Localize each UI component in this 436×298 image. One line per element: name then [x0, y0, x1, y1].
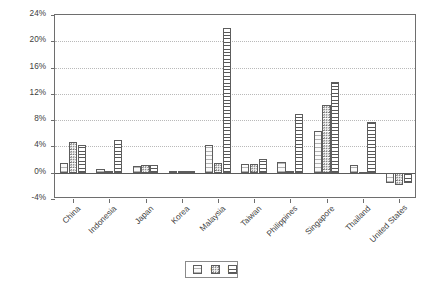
bar-group [164, 15, 200, 197]
bar-g [277, 162, 285, 173]
bar-c [105, 171, 113, 173]
bar-g [96, 169, 104, 172]
bar-c [69, 142, 77, 173]
y-tick-label: 24% [0, 10, 46, 18]
bar-c [178, 171, 186, 173]
x-tick-label: United States [368, 204, 408, 244]
bar-group [272, 15, 308, 197]
bar-group [127, 15, 163, 197]
x-tick-label: China [42, 204, 82, 244]
bar-i [259, 159, 267, 173]
chart-legend: GCI [185, 261, 238, 278]
x-tick-label: Indonesia [78, 204, 118, 244]
bar-group [236, 15, 272, 197]
bar-c [395, 173, 403, 185]
y-tick-label: 4% [0, 141, 46, 149]
bar-c [141, 165, 149, 172]
legend-item-g[interactable]: G [193, 265, 200, 274]
x-tick-mark [363, 199, 364, 203]
bar-g [241, 164, 249, 173]
bar-group [200, 15, 236, 197]
x-tick-mark [182, 199, 183, 203]
y-tick-label: 8% [0, 115, 46, 123]
bar-group [91, 15, 127, 197]
legend-item-c[interactable]: C [211, 265, 217, 274]
bar-c [286, 171, 294, 173]
bar-i [78, 145, 86, 173]
x-tick-label: Japan [115, 204, 155, 244]
bar-i [404, 173, 412, 183]
bar-i [186, 171, 194, 173]
x-tick-mark [218, 199, 219, 203]
x-tick-mark [73, 199, 74, 203]
x-tick-mark [399, 199, 400, 203]
plot-area [54, 14, 416, 198]
bar-i [367, 122, 375, 173]
bar-chart: 24%20%16%12%8%4%0%-4% ChinaIndonesiaJapa… [0, 0, 436, 298]
bar-g [205, 145, 213, 173]
bar-i [295, 114, 303, 173]
x-tick-label: Singapore [296, 204, 336, 244]
legend-swatch-icon [211, 265, 220, 274]
bar-i [114, 140, 122, 173]
bar-group [345, 15, 381, 197]
x-tick-mark [327, 199, 328, 203]
legend-swatch-icon [193, 265, 202, 274]
bar-g [314, 131, 322, 172]
x-tick-mark [254, 199, 255, 203]
x-tick-mark [146, 199, 147, 203]
x-tick-mark [109, 199, 110, 203]
bar-g [386, 173, 394, 183]
x-tick-label: Korea [151, 204, 191, 244]
legend-item-i[interactable]: I [228, 265, 230, 274]
y-tick-label: 0% [0, 168, 46, 176]
bar-g [169, 171, 177, 173]
bar-group [308, 15, 344, 197]
bar-g [350, 165, 358, 173]
legend-swatch-icon [228, 265, 237, 274]
bar-group [55, 15, 91, 197]
bar-i [150, 165, 158, 173]
bar-i [223, 28, 231, 173]
bar-g [133, 166, 141, 173]
y-tick-label: 12% [0, 89, 46, 97]
x-tick-label: Malaysia [187, 204, 227, 244]
y-tick-mark [51, 199, 55, 200]
bar-i [331, 82, 339, 173]
bar-c [322, 105, 330, 173]
bar-g [60, 163, 68, 173]
y-tick-label: 16% [0, 63, 46, 71]
x-tick-mark [290, 199, 291, 203]
x-tick-label: Thailand [332, 204, 372, 244]
x-tick-label: Philippines [259, 204, 299, 244]
bar-c [359, 172, 367, 174]
bar-group [381, 15, 417, 197]
y-tick-label: 20% [0, 36, 46, 44]
bar-c [250, 164, 258, 173]
bar-c [214, 163, 222, 173]
y-tick-label: -4% [0, 194, 46, 202]
x-tick-label: Taiwan [223, 204, 263, 244]
